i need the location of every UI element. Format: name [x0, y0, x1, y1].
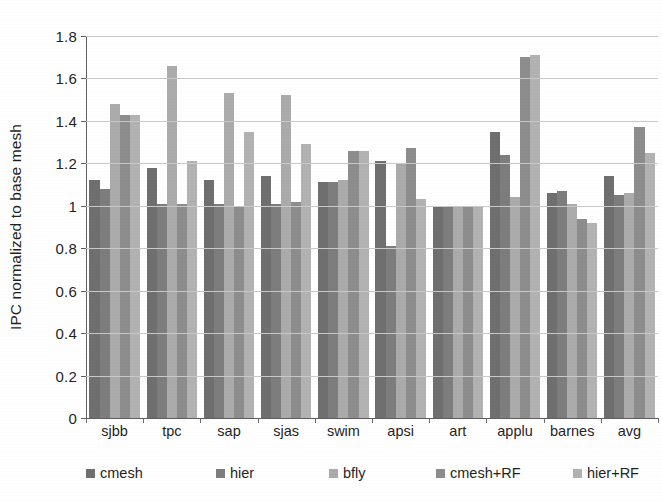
y-tick-mark: [81, 333, 86, 334]
bar-cmesh-plus-RF-tpc: [177, 204, 187, 418]
x-tick-mark: [200, 418, 201, 423]
x-label-applu: applu: [486, 423, 543, 445]
y-gridline: [86, 291, 658, 292]
bar-cmesh-plus-RF-applu: [520, 57, 530, 418]
bar-cmesh-sjas: [261, 176, 271, 418]
bar-group-applu: [486, 36, 543, 418]
bar-hier-sap: [214, 204, 224, 418]
bars: [318, 36, 368, 418]
legend-label: hier: [230, 465, 254, 481]
x-tick-mark: [544, 418, 545, 423]
x-label-barnes: barnes: [544, 423, 601, 445]
x-axis-category-labels: sjbbtpcsapsjasswimapsiartapplubarnesavg: [86, 423, 658, 445]
bar-cmesh-sjbb: [89, 180, 99, 418]
x-tick-mark: [258, 418, 259, 423]
bar-hier-plus-RF-apsi: [416, 199, 426, 418]
bar-hier-plus-RF-tpc: [187, 161, 197, 418]
bar-hier-plus-RF-applu: [530, 55, 540, 418]
bar-cmesh-plus-RF-art: [463, 206, 473, 418]
y-tick-label: 1.4: [56, 113, 77, 130]
bar-hier-avg: [614, 195, 624, 418]
y-tick-mark: [81, 36, 86, 37]
bar-cmesh-plus-RF-avg: [634, 127, 644, 418]
x-label-sjbb: sjbb: [86, 423, 143, 445]
chart-legend: cmeshhierbflycmesh+RFhier+RF: [86, 462, 658, 484]
y-gridline: [86, 248, 658, 249]
y-gridline: [86, 78, 658, 79]
y-tick-mark: [81, 248, 86, 249]
bar-chart-figure: IPC normalized to base mesh 00.20.40.60.…: [0, 0, 662, 502]
bar-bfly-sjbb: [110, 104, 120, 418]
x-label-apsi: apsi: [372, 423, 429, 445]
legend-item-hier[interactable]: hier: [216, 465, 254, 481]
bar-groups: [86, 36, 658, 418]
x-tick-mark: [86, 418, 87, 423]
bars: [204, 36, 254, 418]
y-tick-label: 1: [68, 198, 77, 215]
bar-group-sjas: [258, 36, 315, 418]
plot-area: 00.20.40.60.811.21.41.61.8: [86, 36, 658, 418]
bar-group-sap: [200, 36, 257, 418]
bars: [261, 36, 311, 418]
bar-hier-sjbb: [100, 189, 110, 418]
bar-hier-barnes: [557, 191, 567, 418]
y-gridline: [86, 121, 658, 122]
x-label-sap: sap: [200, 423, 257, 445]
bars: [547, 36, 597, 418]
legend-item-cmesh[interactable]: cmesh: [86, 465, 143, 481]
y-tick-label: 0.6: [56, 283, 77, 300]
bar-group-swim: [315, 36, 372, 418]
x-tick-mark: [372, 418, 373, 423]
legend-label: hier+RF: [587, 465, 639, 481]
bar-cmesh-plus-RF-sjas: [291, 202, 301, 418]
bar-hier-art: [443, 206, 453, 418]
bar-cmesh-plus-RF-swim: [348, 151, 358, 418]
x-tick-mark: [658, 418, 659, 423]
y-gridline: [86, 206, 658, 207]
y-tick-mark: [81, 291, 86, 292]
bar-group-barnes: [544, 36, 601, 418]
bar-cmesh-apsi: [375, 161, 385, 418]
x-tick-mark: [429, 418, 430, 423]
x-label-tpc: tpc: [143, 423, 200, 445]
bar-hier-applu: [500, 155, 510, 418]
y-tick-mark: [81, 121, 86, 122]
bar-cmesh-plus-RF-sjbb: [120, 115, 130, 418]
y-axis-title: IPC normalized to base mesh: [6, 36, 26, 418]
bar-group-apsi: [372, 36, 429, 418]
legend-label: cmesh+RF: [450, 465, 521, 481]
y-tick-label: 0.8: [56, 240, 77, 257]
bars: [490, 36, 540, 418]
legend-item-bfly[interactable]: bfly: [329, 465, 366, 481]
bar-cmesh-swim: [318, 182, 328, 418]
bar-cmesh-art: [433, 206, 443, 418]
legend-swatch-icon: [216, 469, 225, 478]
legend-label: cmesh: [100, 465, 143, 481]
y-tick-mark: [81, 78, 86, 79]
bar-cmesh-sap: [204, 180, 214, 418]
x-tick-mark: [601, 418, 602, 423]
bar-group-art: [429, 36, 486, 418]
bar-hier-plus-RF-barnes: [587, 223, 597, 418]
x-tick-mark: [143, 418, 144, 423]
y-tick-label: 0.2: [56, 368, 77, 385]
legend-swatch-icon: [573, 469, 582, 478]
bar-hier-plus-RF-swim: [359, 151, 369, 418]
bar-group-sjbb: [86, 36, 143, 418]
y-tick-label: 1.2: [56, 155, 77, 172]
legend-item-cmesh-plus-RF[interactable]: cmesh+RF: [436, 465, 521, 481]
y-gridline: [86, 163, 658, 164]
x-label-swim: swim: [315, 423, 372, 445]
bar-bfly-swim: [338, 180, 348, 418]
bar-bfly-sjas: [281, 95, 291, 418]
bar-group-tpc: [143, 36, 200, 418]
bar-hier-plus-RF-avg: [645, 153, 655, 418]
y-tick-mark: [81, 376, 86, 377]
legend-swatch-icon: [436, 469, 445, 478]
x-label-art: art: [429, 423, 486, 445]
bar-bfly-sap: [224, 93, 234, 418]
bar-hier-sjas: [271, 204, 281, 418]
legend-label: bfly: [343, 465, 366, 481]
x-tick-mark: [315, 418, 316, 423]
legend-item-hier-plus-RF[interactable]: hier+RF: [573, 465, 639, 481]
